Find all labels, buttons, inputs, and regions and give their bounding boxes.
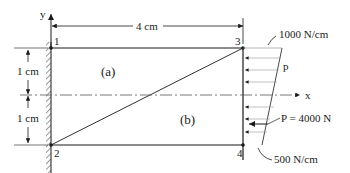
fixed-support-wall — [46, 42, 51, 173]
width-dimension-label: 4 cm — [136, 20, 158, 32]
element-a-label: (a) — [101, 64, 115, 79]
load-envelope — [262, 48, 282, 145]
bottom-load-label: 500 N/cm — [274, 153, 318, 165]
distributed-load-label: p — [283, 60, 289, 72]
top-load-label: 1000 N/cm — [279, 28, 329, 40]
element-b-label: (b) — [180, 112, 195, 127]
node-2-label: 2 — [54, 147, 60, 159]
diagonal-element-boundary — [51, 48, 243, 145]
fem-plate-diagram: y 4 cm x 1 cm 1 cm 1 2 3 4 (a) (b) P = 4… — [0, 0, 350, 173]
y-axis-label: y — [40, 8, 46, 20]
node-3-label: 3 — [235, 35, 241, 47]
node-4-label: 4 — [237, 147, 243, 159]
node-1-label: 1 — [54, 35, 60, 47]
lower-height-label: 1 cm — [17, 112, 39, 124]
upper-height-label: 1 cm — [17, 65, 39, 77]
resultant-force-label: P = 4000 N — [281, 112, 331, 124]
x-axis-label: x — [305, 89, 311, 101]
